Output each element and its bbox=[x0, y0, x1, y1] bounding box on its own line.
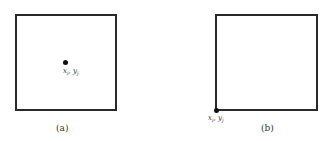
square-b bbox=[215, 14, 318, 111]
point-dot-b bbox=[214, 108, 219, 113]
caption-a: (a) bbox=[56, 123, 68, 133]
point-dot-a bbox=[63, 60, 68, 65]
point-label-b: xi, yj bbox=[208, 114, 224, 123]
point-label-a: xi, yj bbox=[63, 67, 79, 76]
caption-b: (b) bbox=[261, 123, 274, 133]
